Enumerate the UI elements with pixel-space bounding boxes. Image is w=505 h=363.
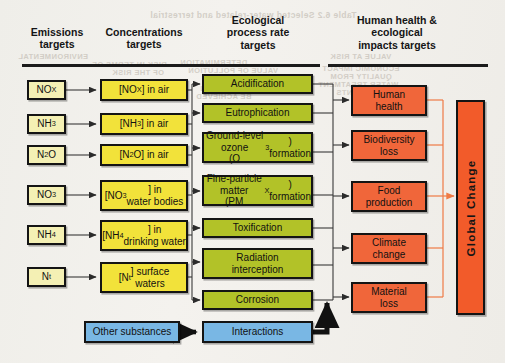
column-header-concentrations: Concentrations targets [94,26,194,51]
node-concentration-nh4-drinking[interactable]: [NH4] indrinking water [100,220,188,251]
node-ecological-particulate-matter[interactable]: Fine-particle matter(PMX) formation [202,175,313,206]
header-line: process rate [198,26,318,38]
header-rule-left [22,64,320,67]
header-line: targets [14,38,100,50]
node-concentration-n2o-air[interactable]: [N2O] in air [100,144,188,166]
header-line: targets [198,39,318,51]
node-emission-nh4[interactable]: NH4 [27,225,66,245]
node-interactions[interactable]: Interactions [202,321,313,343]
bleed-text: QUALITY FROM [330,72,392,81]
bleed-text: VALUE AT RISK [330,52,391,61]
node-emission-nox[interactable]: NOX [27,80,66,100]
node-impact-human-health[interactable]: Humanhealth [351,85,427,116]
header-line: Ecological [198,14,318,26]
node-emission-nt[interactable]: Nt [27,267,66,287]
column-header-ecological: Ecological process rate targets [198,14,318,51]
header-line: ecological [330,26,464,38]
node-ecological-acidification[interactable]: Acidification [202,74,313,94]
node-impact-material-loss[interactable]: Materialloss [351,282,427,313]
node-ecological-corrosion[interactable]: Corrosion [202,290,313,310]
node-global-change[interactable]: Global Change [456,100,485,315]
node-ecological-eutrophication[interactable]: Eutrophication [202,103,313,123]
bleed-text: OF THE RISK [112,68,164,77]
bleed-text: ENVIRONMENTAL [18,52,88,61]
column-header-emissions: Emissions targets [14,26,100,51]
global-change-label: Global Change [465,159,477,256]
node-impact-biodiversity-loss[interactable]: Biodiversityloss [351,130,427,161]
header-line: targets [94,38,194,50]
header-line: Human health & [330,14,464,26]
node-impact-food-production[interactable]: Foodproduction [351,181,427,212]
figure-canvas: Table 6.2 Selected water-related and ter… [0,0,505,363]
column-header-impacts: Human health & ecological impacts target… [330,14,464,51]
node-ecological-radiation-interception[interactable]: Radiationinterception [202,248,313,279]
node-ecological-ozone[interactable]: Ground-level ozone(O3) formation [202,132,313,163]
node-concentration-no3-water[interactable]: [NO3] inwater bodies [100,180,188,211]
header-line: impacts targets [330,39,464,51]
header-line: Concentrations [94,26,194,38]
node-impact-climate-change[interactable]: Climatechange [351,233,427,264]
node-other-substances[interactable]: Other substances [84,321,180,343]
node-emission-n2o[interactable]: N2O [27,145,66,165]
node-concentration-nox-air[interactable]: [NOX] in air [100,79,188,101]
node-ecological-toxification[interactable]: Toxification [202,218,313,238]
header-line: Emissions [14,26,100,38]
node-emission-nh3[interactable]: NH3 [27,114,66,134]
header-rule-right [328,64,488,67]
node-emission-no3[interactable]: NO3 [27,185,66,205]
node-concentration-nh3-air[interactable]: [NH3] in air [100,113,188,135]
node-concentration-nt-surface[interactable]: [Nt] surfacewaters [100,262,188,293]
